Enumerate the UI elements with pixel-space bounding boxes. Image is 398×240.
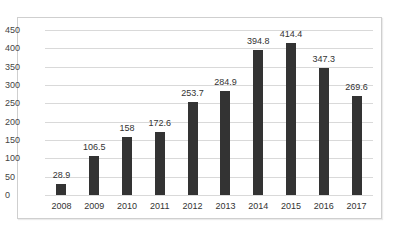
gridline (45, 195, 373, 196)
y-tick-label: 300 (5, 80, 35, 90)
bar-2014 (253, 50, 263, 195)
bar-2008 (56, 184, 66, 195)
data-label: 172.6 (140, 118, 180, 128)
y-tick-label: 450 (5, 25, 35, 35)
y-tick-label: 0 (5, 190, 35, 200)
gridline (45, 48, 373, 49)
bar-2016 (319, 68, 329, 195)
bar-2010 (122, 137, 132, 195)
y-tick-label: 250 (5, 98, 35, 108)
y-tick-label: 150 (5, 135, 35, 145)
plot-area: 05010015020025030035040045028.92008106.5… (45, 30, 373, 195)
bar-2011 (155, 132, 165, 195)
data-label: 347.3 (304, 54, 344, 64)
y-tick-label: 50 (5, 172, 35, 182)
data-label: 28.9 (41, 170, 81, 180)
y-tick-label: 100 (5, 153, 35, 163)
y-tick-label: 350 (5, 62, 35, 72)
bar-2009 (89, 156, 99, 195)
gridline (45, 30, 373, 31)
x-tick-label: 2017 (337, 201, 377, 211)
y-tick-label: 200 (5, 117, 35, 127)
bar-2013 (220, 91, 230, 195)
data-label: 106.5 (74, 142, 114, 152)
data-label: 253.7 (173, 88, 213, 98)
bar-2012 (188, 102, 198, 195)
bar-2015 (286, 43, 296, 195)
data-label: 269.6 (337, 82, 377, 92)
data-label: 414.4 (271, 29, 311, 39)
y-tick-label: 400 (5, 43, 35, 53)
data-label: 284.9 (205, 77, 245, 87)
bar-2017 (352, 96, 362, 195)
